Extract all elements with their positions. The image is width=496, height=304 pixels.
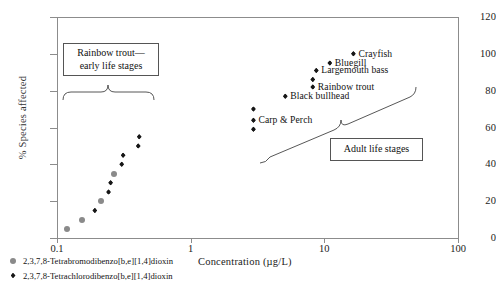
y-tick-40 — [50, 164, 57, 165]
annotation-early-line2: early life stages — [70, 60, 152, 73]
diamond-marker-icon — [6, 271, 20, 281]
y-tick-0 — [50, 238, 57, 239]
data-point — [79, 217, 85, 223]
legend: 2,3,7,8-Tetrabromodibenzo[b,e][1,4]dioxi… — [6, 253, 173, 283]
y-tick-label-100: 100 — [450, 49, 496, 59]
x-axis-title: Concentration (µg/L) — [198, 256, 292, 267]
data-point — [64, 226, 70, 232]
x-axis-line — [57, 238, 458, 239]
x-tick-label-100: 100 — [438, 243, 478, 254]
y-tick-label-120: 120 — [450, 12, 496, 22]
circle-marker-icon — [6, 256, 20, 266]
species-label-black-bullhead: Black bullhead — [290, 91, 349, 101]
y-tick-80 — [50, 91, 57, 92]
y-tick-20 — [50, 201, 57, 202]
annotation-early-life-stages: Rainbow trout— early life stages — [63, 43, 159, 76]
data-point — [111, 171, 117, 177]
x-tick-label-1: 1 — [171, 243, 211, 254]
y-tick-label-40: 40 — [450, 159, 496, 169]
y-tick-120 — [50, 17, 57, 18]
legend-item-1[interactable]: 2,3,7,8-Tetrabromodibenzo[b,e][1,4]dioxi… — [6, 253, 173, 268]
x-tick-label-10: 10 — [304, 243, 344, 254]
figure-canvas: 020406080100120 % Species affected 0.111… — [0, 0, 496, 304]
y-axis-title: % Species affected — [17, 33, 28, 203]
legend-label: 2,3,7,8-Tetrachlorodibenzo[b,e][1,4]diox… — [23, 271, 173, 281]
y-tick-label-60: 60 — [450, 123, 496, 133]
legend-item-2[interactable]: 2,3,7,8-Tetrachlorodibenzo[b,e][1,4]diox… — [6, 268, 173, 283]
y-tick-60 — [50, 128, 57, 129]
y-tick-label-20: 20 — [450, 196, 496, 206]
annotation-adult-line1: Adult life stages — [337, 143, 416, 156]
y-tick-label-0: 0 — [450, 233, 496, 243]
species-label-carp-perch: Carp & Perch — [258, 115, 312, 125]
annotation-adult-life-stages: Adult life stages — [330, 138, 423, 161]
annotation-early-line1: Rainbow trout— — [70, 47, 152, 60]
species-label-largemouth-bass: Largemouth bass — [321, 65, 388, 75]
y-tick-100 — [50, 54, 57, 55]
legend-label: 2,3,7,8-Tetrabromodibenzo[b,e][1,4]dioxi… — [23, 256, 173, 266]
y-tick-label-80: 80 — [450, 86, 496, 96]
